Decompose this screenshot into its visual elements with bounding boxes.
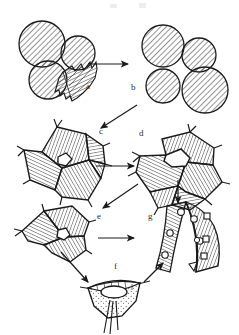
scan-artifact-right xyxy=(139,3,146,8)
panel-label-a: a xyxy=(86,82,90,91)
scan-artifact-left xyxy=(110,4,117,8)
panel-e xyxy=(14,204,96,262)
panel-label-c: c xyxy=(99,127,103,136)
arrow-d-to-e xyxy=(103,184,138,208)
central-pore-f xyxy=(101,286,127,298)
cell-b3 xyxy=(146,69,180,103)
panel-label-b: b xyxy=(131,83,136,92)
panel-b xyxy=(142,25,228,113)
cell-b2 xyxy=(182,38,216,72)
panel-g xyxy=(156,202,219,272)
panel-label-f: f xyxy=(114,262,117,271)
panel-c xyxy=(17,119,112,207)
panel-label-g: g xyxy=(148,212,153,221)
arrow-b-to-c xyxy=(101,105,137,128)
arrow-f-to-g xyxy=(144,263,163,282)
cell-b4 xyxy=(182,67,228,113)
diagram-svg xyxy=(0,0,239,335)
panel-f xyxy=(80,280,150,334)
panel-label-d: d xyxy=(139,129,144,138)
cell-b1 xyxy=(142,25,184,67)
figure-canvas: a b c d e f g xyxy=(0,0,239,335)
cell-a1 xyxy=(19,21,65,67)
panel-label-e: e xyxy=(97,212,101,221)
